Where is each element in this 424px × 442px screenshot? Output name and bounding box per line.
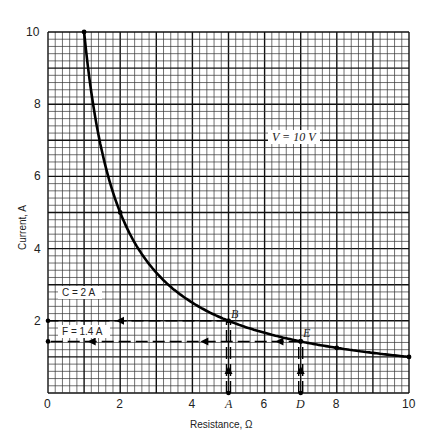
y-axis-label: Current, A: [17, 205, 28, 250]
svg-text:4: 4: [188, 397, 195, 411]
svg-text:8: 8: [34, 97, 41, 111]
point-a-label: A: [224, 397, 233, 411]
svg-text:4: 4: [34, 242, 41, 256]
svg-text:0: 0: [44, 397, 51, 411]
x-axis-label: Resistance, Ω: [190, 419, 253, 430]
point-d-label: D: [295, 397, 305, 411]
svg-text:6: 6: [261, 397, 268, 411]
svg-text:8: 8: [333, 397, 340, 411]
point-e-label: E: [302, 326, 311, 340]
svg-text:10: 10: [402, 397, 416, 411]
c-label: C = 2 A: [62, 287, 95, 298]
f-label: F = 1.4 A: [62, 326, 103, 337]
grid: [48, 32, 409, 393]
svg-text:6: 6: [34, 169, 41, 183]
svg-text:2: 2: [116, 397, 123, 411]
point-b-label: B: [231, 307, 239, 321]
svg-text:10: 10: [26, 25, 40, 39]
svg-text:2: 2: [34, 314, 41, 328]
resistance-current-chart: 0246810246810 V = 10 V C = 2 A F = 1.4 A…: [0, 0, 424, 442]
curve-v10: [82, 30, 412, 360]
curve-label: V = 10 V: [272, 130, 317, 144]
